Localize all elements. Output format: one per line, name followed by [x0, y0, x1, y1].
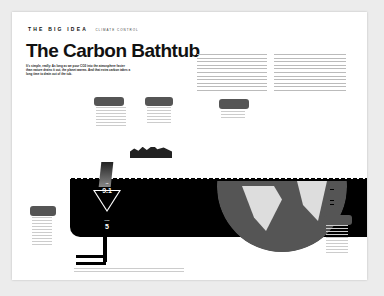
footer-credits — [74, 268, 184, 272]
callout-text-left — [32, 217, 52, 245]
callout-text-2 — [147, 107, 171, 125]
callout-bubble-3 — [219, 99, 249, 109]
drain-arrow-1 — [76, 255, 106, 258]
magazine-page: THE BIG IDEA CLIMATE CONTROL The Carbon … — [12, 12, 367, 280]
intro-text-col-1 — [197, 54, 267, 92]
dek: It's simple, really: As long as we pour … — [26, 64, 131, 76]
drain-arrow-2 — [76, 262, 106, 265]
callout-bubble-2 — [145, 97, 173, 106]
kicker: THE BIG IDEA CLIMATE CONTROL — [28, 26, 139, 32]
callout-bubble-right — [324, 215, 352, 225]
intro-text-col-2 — [274, 54, 346, 92]
drain-pipe — [103, 237, 107, 262]
inflow-value: 9.1 — [95, 187, 119, 194]
callout-text-1 — [96, 107, 126, 127]
callout-bubble-left — [30, 206, 56, 216]
callout-bubble-1 — [94, 97, 124, 106]
page-title: The Carbon Bathtub — [26, 40, 200, 62]
city-skyline-icon — [130, 142, 172, 158]
callout-text-right — [326, 225, 348, 255]
outflow-value: 5 — [95, 223, 119, 230]
